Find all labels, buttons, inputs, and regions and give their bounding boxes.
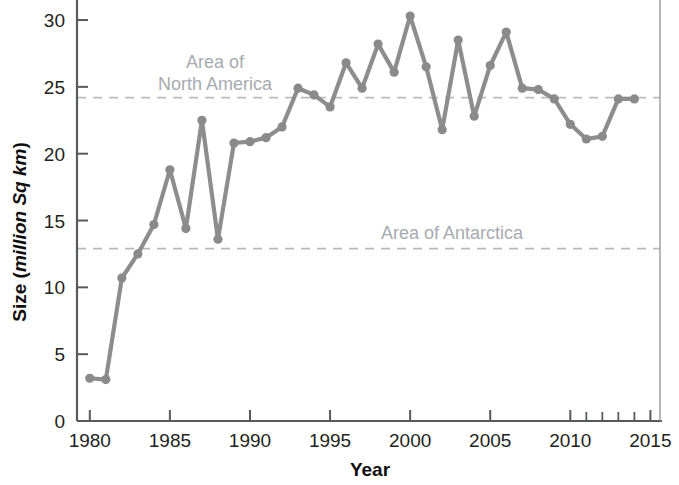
data-series-group — [85, 11, 639, 384]
data-point-1981 — [101, 375, 110, 384]
data-point-1998 — [374, 40, 383, 49]
data-point-2007 — [518, 84, 527, 93]
data-point-1986 — [181, 224, 190, 233]
data-point-2005 — [486, 61, 495, 70]
reference-label-north-america-line2: North America — [158, 74, 273, 94]
data-point-2003 — [454, 35, 463, 44]
ozone-hole-size-line — [90, 16, 635, 380]
y-tick-label-20: 20 — [44, 144, 65, 165]
data-point-1994 — [309, 90, 318, 99]
data-point-2009 — [550, 94, 559, 103]
x-tick-label-1995: 1995 — [309, 430, 351, 451]
reference-label-antarctica: Area of Antarctica — [381, 223, 524, 243]
x-axis-title: Year — [350, 459, 391, 480]
data-point-2011 — [582, 134, 591, 143]
data-point-1984 — [149, 220, 158, 229]
data-point-1980 — [85, 374, 94, 383]
reference-lines-group — [77, 98, 660, 249]
y-tick-label-5: 5 — [54, 344, 65, 365]
data-point-1997 — [357, 84, 366, 93]
data-point-2008 — [534, 85, 543, 94]
data-point-2004 — [470, 112, 479, 121]
line-chart-canvas: 0510152025301980198519901995200020052010… — [0, 0, 679, 485]
y-tick-label-15: 15 — [44, 211, 65, 232]
data-point-1990 — [245, 137, 254, 146]
data-point-2001 — [422, 62, 431, 71]
data-point-1999 — [390, 68, 399, 77]
y-tick-label-10: 10 — [44, 277, 65, 298]
x-tick-label-1990: 1990 — [229, 430, 271, 451]
tick-labels-group: 0510152025301980198519901995200020052010… — [44, 10, 672, 451]
data-point-1993 — [293, 84, 302, 93]
x-tick-label-2005: 2005 — [469, 430, 511, 451]
data-point-1996 — [341, 58, 350, 67]
y-tick-label-25: 25 — [44, 77, 65, 98]
y-tick-label-0: 0 — [54, 411, 65, 432]
data-point-1983 — [133, 249, 142, 258]
y-tick-label-30: 30 — [44, 10, 65, 31]
data-point-1995 — [325, 102, 334, 111]
data-point-2010 — [566, 120, 575, 129]
y-axis-title: Size (million Sq km) — [9, 142, 30, 321]
data-point-1992 — [277, 122, 286, 131]
data-point-1987 — [197, 116, 206, 125]
reference-label-north-america: Area of — [186, 52, 245, 72]
x-tick-label-1985: 1985 — [149, 430, 191, 451]
data-point-markers — [85, 11, 639, 384]
data-point-1991 — [261, 133, 270, 142]
x-tick-label-2000: 2000 — [389, 430, 431, 451]
x-tick-label-2010: 2010 — [549, 430, 591, 451]
data-point-1988 — [213, 235, 222, 244]
chart-figure: 0510152025301980198519901995200020052010… — [0, 0, 679, 485]
data-point-1985 — [165, 165, 174, 174]
data-point-2013 — [614, 94, 623, 103]
data-point-2012 — [598, 132, 607, 141]
x-tick-label-2015: 2015 — [629, 430, 671, 451]
data-point-2006 — [502, 27, 511, 36]
data-point-1982 — [117, 273, 126, 282]
data-point-2000 — [406, 11, 415, 20]
data-point-2002 — [438, 125, 447, 134]
x-tick-label-1980: 1980 — [69, 430, 111, 451]
data-point-2014 — [630, 94, 639, 103]
data-point-1989 — [229, 138, 238, 147]
